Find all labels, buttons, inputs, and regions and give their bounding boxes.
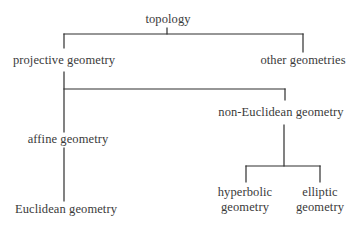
node-non-euclidean-geometry: non-Euclidean geometry — [218, 105, 343, 120]
node-elliptic-geometry: elliptic geometry — [296, 185, 344, 215]
node-projective-geometry: projective geometry — [13, 53, 115, 68]
geometry-hierarchy-diagram: topology projective geometry other geome… — [0, 0, 361, 229]
hyperbolic-label-line2: geometry — [218, 200, 272, 215]
node-hyperbolic-geometry: hyperbolic geometry — [218, 185, 272, 215]
node-topology: topology — [145, 12, 190, 27]
node-affine-geometry: affine geometry — [28, 132, 109, 147]
elliptic-label-line2: geometry — [296, 200, 344, 215]
hyperbolic-label-line1: hyperbolic — [218, 185, 272, 200]
elliptic-label-line1: elliptic — [296, 185, 344, 200]
node-other-geometries: other geometries — [260, 53, 345, 68]
node-euclidean-geometry: Euclidean geometry — [15, 202, 117, 217]
